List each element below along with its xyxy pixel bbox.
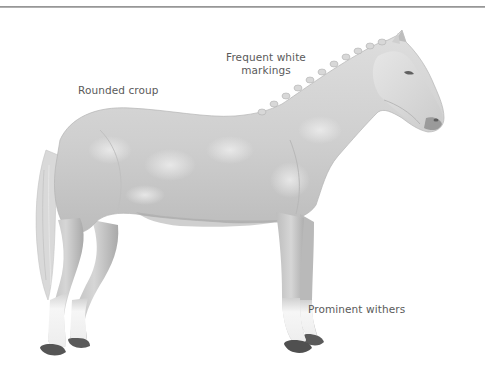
label-rounded-croup: Rounded croup bbox=[78, 84, 159, 97]
label-frequent-white-markings: Frequent white markings bbox=[218, 51, 314, 77]
label-prominent-withers: Prominent withers bbox=[308, 303, 405, 316]
label-markings-line2: markings bbox=[218, 64, 314, 77]
label-markings-line1: Frequent white bbox=[218, 51, 314, 64]
